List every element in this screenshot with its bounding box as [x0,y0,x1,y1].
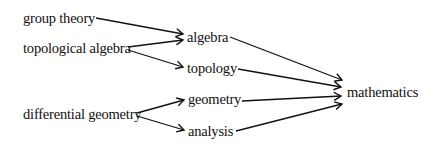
edge-differential-geometry-to-geometry [137,100,184,113]
node-group-theory: group theory [23,11,95,26]
edge-group-theory-to-algebra [96,18,183,34]
node-topological-algebra: topological algebra [23,41,131,56]
edge-topological-algebra-to-algebra [128,40,183,47]
node-analysis: analysis [188,124,233,139]
edge-differential-geometry-to-analysis [137,116,184,130]
node-algebra: algebra [187,30,228,45]
diagram-canvas: group theory topological algebra differe… [0,0,433,147]
node-mathematics: mathematics [347,85,418,100]
node-geometry: geometry [188,92,241,107]
node-differential-geometry: differential geometry [23,107,141,122]
node-topology: topology [187,61,237,76]
edge-topological-algebra-to-topology [128,50,183,67]
edge-analysis-to-mathematics [236,104,342,131]
edge-geometry-to-mathematics [242,96,341,101]
edge-topology-to-mathematics [238,69,341,87]
edge-algebra-to-mathematics [230,37,342,80]
